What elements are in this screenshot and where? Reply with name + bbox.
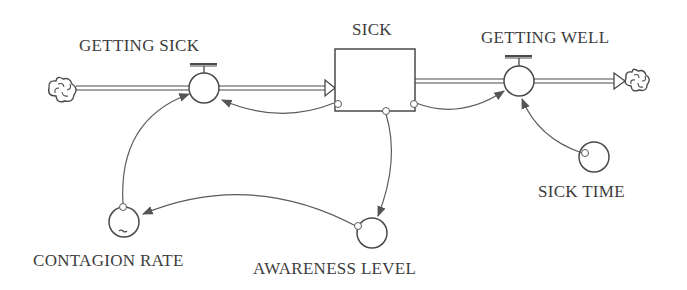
flow-arrowhead-icon [614, 73, 625, 89]
connector-origin-markers [120, 101, 589, 230]
sick-time-label: SICK TIME [538, 183, 625, 200]
contagion-rate-converter[interactable] [109, 207, 139, 237]
getting-well-label: GETTING WELL [481, 29, 609, 46]
connector-sick-to-getting-sick [222, 100, 334, 113]
sick-stock[interactable] [335, 49, 415, 111]
getting-well-valve[interactable] [504, 56, 534, 96]
getting-well-valve-icon [504, 66, 534, 96]
getting-sick-label: GETTING SICK [79, 37, 199, 54]
sink-cloud-icon [625, 69, 649, 91]
connector-sick-to-awareness [378, 114, 391, 216]
connector-sicktime-to-getting-well [522, 99, 582, 153]
source-cloud-icon [49, 77, 76, 101]
getting-sick-valve-icon [189, 73, 219, 103]
connector-contagion-to-getting-sick [123, 94, 189, 204]
connector-sick-to-getting-well [416, 91, 504, 109]
flow-arrowhead-icon [325, 80, 335, 96]
sick-stock-label: SICK [352, 21, 392, 38]
awareness-level-label: AWARENESS LEVEL [253, 260, 416, 277]
awareness-level-converter[interactable] [357, 218, 387, 248]
sick-time-converter[interactable] [579, 142, 609, 172]
contagion-rate-label: CONTAGION RATE [33, 252, 184, 269]
connector-awareness-to-contagion [143, 195, 356, 226]
getting-sick-valve[interactable] [189, 64, 219, 103]
